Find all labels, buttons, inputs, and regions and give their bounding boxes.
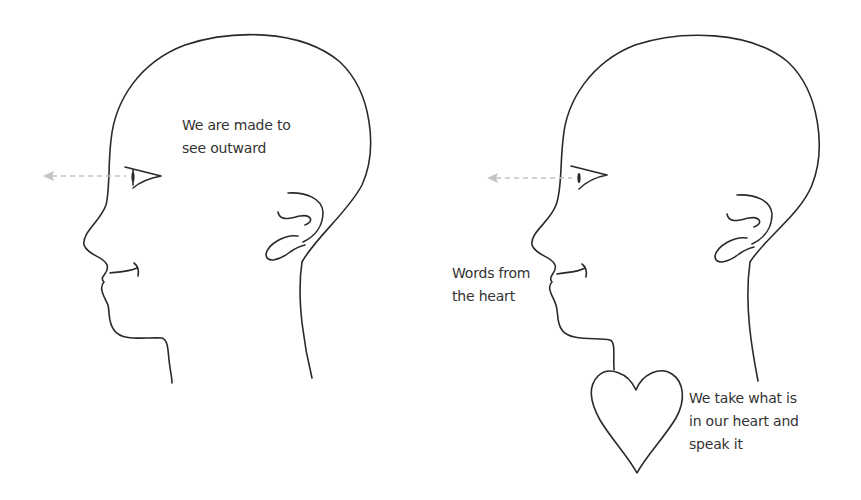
left-mouth-icon	[110, 263, 138, 276]
left-pupil-icon	[131, 172, 134, 182]
heart-caption-line-3: speak it	[689, 433, 799, 456]
left-head-profile	[43, 35, 371, 383]
right-pupil-icon	[577, 173, 580, 183]
left-caption-line-1: We are made to	[182, 114, 291, 137]
heart-caption-line-2: in our heart and	[689, 410, 799, 433]
left-caption-line-2: see outward	[182, 137, 291, 160]
right-eye-icon	[571, 166, 607, 189]
right-ear-icon	[715, 195, 772, 262]
mouth-caption-line-2: the heart	[452, 285, 530, 308]
left-eye-icon	[125, 167, 161, 188]
mouth-caption-line-1: Words from	[452, 262, 530, 285]
heart-caption: We take what is in our heart and speak i…	[689, 387, 799, 456]
right-mouth-icon	[557, 264, 586, 277]
right-head-outline-icon	[532, 35, 819, 381]
mouth-caption: Words from the heart	[452, 262, 530, 308]
heart-icon	[591, 371, 682, 473]
left-head-outline-icon	[84, 35, 371, 383]
heart-caption-line-1: We take what is	[689, 387, 799, 410]
left-caption: We are made to see outward	[182, 114, 291, 160]
left-ear-icon	[266, 193, 323, 260]
